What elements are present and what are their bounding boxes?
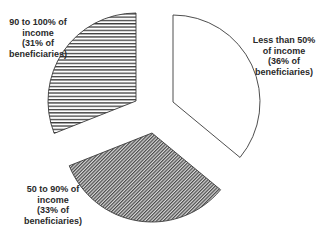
slice-label-0: Less than 50%of income(36% ofbeneficiari…: [253, 35, 316, 77]
slice-label-2: 90 to 100% ofincome(31% ofbeneficiaries): [9, 17, 67, 59]
pie-slice-1: [69, 133, 220, 222]
slice-label-line: 90 to 100% of: [9, 17, 67, 28]
slice-label-line: income: [24, 195, 82, 206]
slice-label-line: Less than 50%: [253, 35, 316, 46]
pie-slice-0: [173, 15, 260, 157]
slice-label-line: beneficiaries): [24, 216, 82, 227]
slice-label-line: beneficiaries): [9, 49, 67, 60]
slice-label-line: (31% of: [9, 38, 67, 49]
slice-label-line: of income: [253, 46, 316, 57]
slice-label-line: 50 to 90% of: [24, 184, 82, 195]
slice-label-line: (36% of: [253, 56, 316, 67]
slice-label-1: 50 to 90% ofincome(33% ofbeneficiaries): [24, 184, 82, 226]
slice-label-line: beneficiaries): [253, 67, 316, 78]
slice-label-line: income: [9, 28, 67, 39]
slice-label-line: (33% of: [24, 205, 82, 216]
